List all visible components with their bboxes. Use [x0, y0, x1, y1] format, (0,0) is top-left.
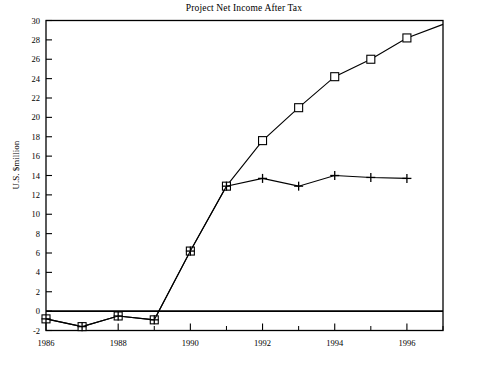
marker-square	[331, 73, 339, 81]
marker-square	[259, 137, 267, 145]
y-tick-label: 8	[36, 229, 40, 239]
marker-square	[367, 55, 375, 63]
y-tick-label: -2	[33, 326, 40, 336]
y-tick-label: 4	[36, 267, 41, 277]
series-layer	[42, 24, 444, 331]
x-tick-label: 1994	[326, 338, 344, 348]
y-tick-label: 24	[32, 74, 41, 84]
y-tick-label: 12	[32, 190, 41, 200]
y-axis-ticks: 302826242220181614121086420-2	[32, 16, 53, 336]
y-tick-label: 0	[36, 306, 40, 316]
y-tick-label: 26	[32, 54, 41, 64]
y-tick-label: 28	[32, 35, 41, 45]
plot-frame	[46, 21, 443, 331]
series-line	[46, 176, 407, 327]
series-plus	[42, 171, 412, 331]
x-tick-label: 1992	[254, 338, 271, 348]
y-tick-label: 16	[32, 151, 41, 161]
chart-figure: Project Net Income After Tax U.S. $milli…	[0, 0, 488, 368]
x-axis-ticks: 198619881990199219941996	[38, 324, 444, 348]
y-tick-label: 2	[36, 287, 40, 297]
x-tick-label: 1990	[182, 338, 199, 348]
y-tick-label: 10	[32, 209, 41, 219]
y-tick-label: 6	[36, 248, 40, 258]
x-tick-label: 1986	[38, 338, 55, 348]
plot-border	[46, 21, 443, 331]
marker-square	[295, 104, 303, 112]
series-line	[46, 24, 443, 326]
y-tick-label: 14	[32, 171, 41, 181]
marker-square	[403, 34, 411, 42]
x-tick-label: 1988	[110, 338, 127, 348]
y-tick-label: 22	[32, 93, 41, 103]
y-tick-label: 20	[32, 112, 41, 122]
x-tick-label: 1996	[398, 338, 415, 348]
plot-area: 302826242220181614121086420-2 1986198819…	[0, 0, 488, 368]
y-tick-label: 18	[32, 132, 41, 142]
y-tick-label: 30	[32, 16, 41, 26]
